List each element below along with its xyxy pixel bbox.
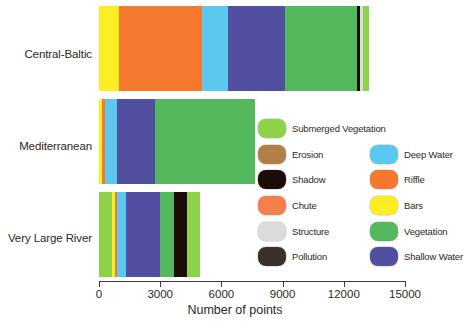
legend-label: Structure	[292, 226, 329, 237]
legend-swatch-icon	[258, 170, 286, 189]
legend-label: Bars	[404, 200, 423, 211]
x-axis-tick	[160, 281, 161, 287]
legend-swatch-icon	[258, 247, 286, 266]
legend-swatch-icon	[370, 170, 398, 189]
legend-swatch-icon	[370, 222, 398, 241]
legend-swatch-icon	[370, 196, 398, 215]
legend-item[interactable]: Bars	[370, 193, 470, 219]
legend-swatch-icon	[258, 119, 286, 138]
legend-item[interactable]: Riffle	[370, 167, 470, 193]
x-axis-tick	[283, 281, 284, 287]
legend-label: Erosion	[292, 149, 323, 160]
legend-label: Pollution	[292, 251, 327, 262]
legend-label: Chute	[292, 200, 317, 211]
legend-item[interactable]: Vegetation	[370, 218, 470, 244]
legend-label: Riffle	[404, 174, 425, 185]
legend-item[interactable]: Shadow	[258, 167, 363, 193]
legend-item[interactable]: Chute	[258, 193, 363, 219]
legend-item[interactable]: Structure	[258, 218, 363, 244]
x-axis-title: Number of points	[0, 303, 470, 317]
x-axis-tick	[221, 281, 222, 287]
x-axis-tick-label: 15000	[389, 288, 421, 300]
x-axis-tick	[405, 281, 406, 287]
legend-item[interactable]: Erosion	[258, 142, 363, 168]
x-axis-tick	[99, 281, 100, 287]
x-axis-tick-label: 9000	[270, 288, 296, 300]
legend-swatch-icon	[258, 145, 286, 164]
x-axis-tick-label: 6000	[209, 288, 235, 300]
legend-item[interactable]: Submerged Vegetation	[258, 116, 363, 142]
legend-column-right: Deep WaterRiffleBarsVegetationShallow Wa…	[370, 142, 470, 270]
legend-column-left: Submerged VegetationErosionShadowChuteSt…	[258, 116, 363, 270]
legend-label: Shadow	[292, 174, 325, 185]
legend-label: Submerged Vegetation	[292, 123, 386, 134]
legend-label: Vegetation	[404, 226, 447, 237]
legend-swatch-icon	[370, 145, 398, 164]
x-axis-tick-label: 12000	[328, 288, 360, 300]
legend-swatch-icon	[258, 196, 286, 215]
legend-item[interactable]: Pollution	[258, 244, 363, 270]
x-axis-tick-label: 0	[96, 288, 102, 300]
stacked-bar-chart: Central-Baltic Mediterranean Very Large …	[0, 0, 470, 321]
legend-item[interactable]: Deep Water	[370, 142, 470, 168]
legend-label: Shallow Water	[404, 251, 463, 262]
legend-label: Deep Water	[404, 149, 453, 160]
legend-swatch-icon	[370, 247, 398, 266]
x-axis-tick-label: 3000	[147, 288, 173, 300]
legend-item[interactable]: Shallow Water	[370, 244, 470, 270]
legend: Submerged VegetationErosionShadowChuteSt…	[258, 116, 470, 270]
legend-swatch-icon	[258, 222, 286, 241]
x-axis-tick	[344, 281, 345, 287]
